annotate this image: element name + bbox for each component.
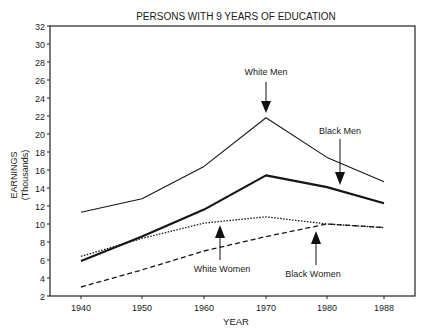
- x-tick-label: 1988: [374, 303, 394, 313]
- y-tick-label: 20: [35, 130, 45, 140]
- arrowhead-icon: [261, 101, 271, 113]
- annotation-white-women: White Women: [194, 225, 250, 274]
- x-axis-label: YEAR: [223, 316, 249, 327]
- x-tick-label: 1940: [71, 303, 91, 313]
- y-tick-label: 32: [35, 22, 45, 32]
- y-tick-label: 26: [35, 76, 45, 86]
- annotation-label: Black Men: [319, 126, 361, 136]
- y-tick-label: 6: [40, 256, 45, 266]
- line-chart: PERSONS WITH 9 YEARS OF EDUCATION 246810…: [0, 0, 423, 329]
- y-tick-label: 12: [35, 202, 45, 212]
- y-axis: 2468101214161820222426283032: [35, 22, 50, 302]
- y-tick-label: 30: [35, 40, 45, 50]
- x-tick-label: 1960: [194, 303, 214, 313]
- arrowhead-icon: [335, 172, 345, 185]
- series-white-women: [81, 217, 384, 257]
- y-axis-label-line1: EARNINGS: [9, 151, 19, 198]
- y-tick-label: 16: [35, 166, 45, 176]
- y-tick-label: 28: [35, 58, 45, 68]
- arrowhead-icon: [215, 225, 225, 238]
- y-tick-label: 14: [35, 184, 45, 194]
- arrowhead-icon: [311, 231, 321, 244]
- y-tick-label: 8: [40, 238, 45, 248]
- series-black-men: [81, 175, 384, 261]
- y-tick-label: 10: [35, 220, 45, 230]
- chart-title: PERSONS WITH 9 YEARS OF EDUCATION: [136, 11, 336, 22]
- y-tick-label: 18: [35, 148, 45, 158]
- y-tick-label: 22: [35, 112, 45, 122]
- y-axis-label: EARNINGS (Thousands): [9, 150, 30, 201]
- annotation-label: White Men: [244, 67, 287, 77]
- annotation-white-men: White Men: [244, 67, 287, 113]
- x-tick-label: 1980: [317, 303, 337, 313]
- annotation-label: Black Women: [285, 269, 340, 279]
- y-tick-label: 4: [40, 274, 45, 284]
- annotation-label: White Women: [194, 264, 250, 274]
- y-tick-label: 24: [35, 94, 45, 104]
- y-axis-label-line2: (Thousands): [20, 150, 30, 201]
- annotation-black-men: Black Men: [319, 126, 361, 185]
- series-lines: [81, 118, 384, 287]
- x-tick-label: 1970: [256, 303, 276, 313]
- annotation-black-women: Black Women: [285, 231, 340, 279]
- x-tick-label: 1950: [132, 303, 152, 313]
- annotations: White Men Black Men White Women Black Wo…: [194, 67, 361, 279]
- y-tick-label: 2: [40, 292, 45, 302]
- plot-area-frame: [50, 26, 415, 296]
- x-axis: 194019501960197019801988: [71, 296, 394, 313]
